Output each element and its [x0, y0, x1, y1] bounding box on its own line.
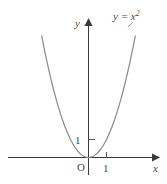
x-tick-label-1: 1 [103, 162, 109, 174]
graph-canvas: y x O 1 1 y = x2 [0, 0, 167, 184]
y-tick-label-1: 1 [75, 134, 81, 146]
equation-exponent: 2 [136, 9, 140, 18]
parabola-figure: y x O 1 1 y = x2 [0, 0, 167, 184]
equation-label: y = x2 [112, 9, 140, 22]
equation-leader-line [128, 22, 133, 27]
x-axis-label: x [152, 162, 158, 174]
y-axis-arrow-icon [85, 18, 93, 26]
equation-base: y = x [112, 10, 136, 22]
y-axis-label: y [74, 17, 80, 29]
origin-label: O [77, 161, 85, 173]
x-axis-arrow-icon [152, 154, 160, 162]
